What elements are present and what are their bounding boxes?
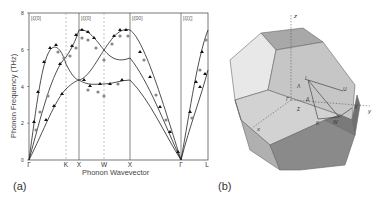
point-label: W [333, 119, 338, 125]
point-label: U [343, 86, 347, 92]
y-axis-label: y [368, 108, 371, 114]
x-tick: W [101, 161, 107, 168]
y-tick: 6 [21, 47, 24, 53]
y-tick: 8 [21, 10, 24, 16]
x-tick: Γ [27, 161, 31, 168]
y-tick: 0 [21, 157, 24, 163]
z-axis-label: z [294, 13, 297, 19]
y-tick: 4 [21, 84, 24, 90]
point-label: K [316, 120, 319, 126]
x-tick: X [128, 161, 132, 168]
point-label: X [354, 104, 357, 110]
region-label: [ζζ0] [31, 15, 41, 21]
panel-label-b: (b) [218, 180, 231, 192]
figure-graphics [0, 0, 383, 202]
point-label: Δ [306, 96, 309, 102]
x-tick: Γ [179, 161, 183, 168]
panel-label-a: (a) [13, 180, 26, 192]
x-axis-title: Phonon Wavevector [82, 168, 149, 177]
y-axis-title: Phonon Frequency (THz) [9, 54, 18, 138]
x-tick: L [205, 161, 209, 168]
point-label: Γ [286, 96, 289, 102]
region-label: [ζζ0] [81, 15, 91, 21]
region-label: [ζζζ] [183, 15, 192, 21]
point-label: Λ [297, 83, 300, 89]
y-tick: 2 [21, 120, 24, 126]
x-tick: X [77, 161, 81, 168]
x-axis-label: x [257, 126, 260, 132]
dispersion-plot [27, 13, 208, 160]
region-label: [ζ00] [132, 15, 143, 21]
point-label: L [305, 75, 308, 81]
figure: [ζζ0] [ζζ0] [ζ00] [ζζζ] 8 6 4 2 0 Phonon… [0, 0, 383, 202]
point-label: Σ [297, 106, 300, 112]
exp-markers [34, 34, 207, 131]
brillouin-zone [230, 15, 370, 170]
x-tick: K [64, 161, 68, 168]
